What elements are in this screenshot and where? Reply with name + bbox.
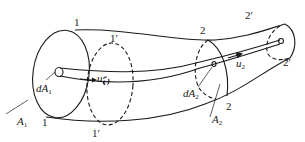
label-u2: u2 [236, 57, 246, 71]
label-section-1prime-top: 1′ [110, 32, 118, 44]
label-u1: u1 [97, 72, 107, 86]
label-section-1prime-bottom: 1′ [92, 127, 100, 139]
filament-inlet-end [55, 68, 63, 77]
label-A2: A2 [211, 113, 223, 127]
section-1prime-ellipse [84, 41, 136, 126]
label-section-2-bottom: 2 [226, 100, 232, 112]
tube-bottom-edge [46, 58, 290, 121]
label-dA1: dA1 [36, 82, 52, 96]
stream-tube-diagram: 1 1 1′ 1′ 2 2 2′ 2′ dA1 A1 u1 dA2 A2 u2 [0, 0, 305, 142]
filament-top [60, 40, 280, 72]
section-2-ellipse-front [195, 40, 216, 99]
tube-top-edge [75, 24, 285, 40]
label-A1: A1 [16, 115, 28, 129]
leader-dA1 [46, 72, 55, 80]
leader-dA2 [198, 67, 212, 87]
label-section-2-top: 2 [200, 24, 206, 36]
label-section-1-bottom: 1 [42, 116, 48, 128]
filament-outlet-end [279, 39, 284, 44]
label-section-2prime-top: 2′ [245, 9, 253, 21]
label-section-1-top: 1 [74, 16, 80, 28]
section-1-ellipse [27, 27, 95, 122]
label-section-2prime-bottom: 2′ [283, 56, 291, 68]
label-dA2: dA2 [183, 87, 199, 101]
leader-A1 [6, 100, 28, 114]
section-2prime-ellipse-back [285, 24, 295, 58]
